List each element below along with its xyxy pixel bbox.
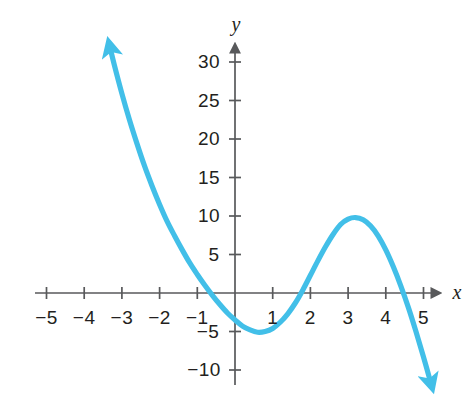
y-tick-label-20: 20	[198, 128, 220, 150]
y-tick-label-15: 15	[198, 167, 220, 189]
x-tick-label-3: 3	[343, 307, 354, 329]
y-tick-label-25: 25	[198, 90, 220, 112]
x-tick-label--5: −5	[35, 307, 58, 329]
x-axis-label: x	[453, 281, 462, 304]
y-tick-label-30: 30	[198, 51, 220, 73]
x-tick-label--3: −3	[111, 307, 134, 329]
x-tick-label-2: 2	[305, 307, 316, 329]
cubic-curve	[110, 47, 431, 384]
y-tick-label-5: 5	[208, 244, 219, 266]
coordinate-plane	[0, 0, 474, 407]
y-tick-label--5: −5	[197, 321, 220, 343]
graph-figure: −5 −4 −3 −2 −1 1 2 3 4 5 30 25 20 15 10 …	[0, 0, 474, 407]
y-tick-label--10: −10	[187, 359, 221, 381]
x-tick-label--2: −2	[148, 307, 171, 329]
x-tick-label-4: 4	[380, 307, 391, 329]
x-tick-label-1: 1	[267, 307, 278, 329]
y-axis-label: y	[232, 13, 241, 36]
x-tick-label-5: 5	[418, 307, 429, 329]
x-tick-label--4: −4	[73, 307, 96, 329]
y-tick-label-10: 10	[198, 205, 220, 227]
